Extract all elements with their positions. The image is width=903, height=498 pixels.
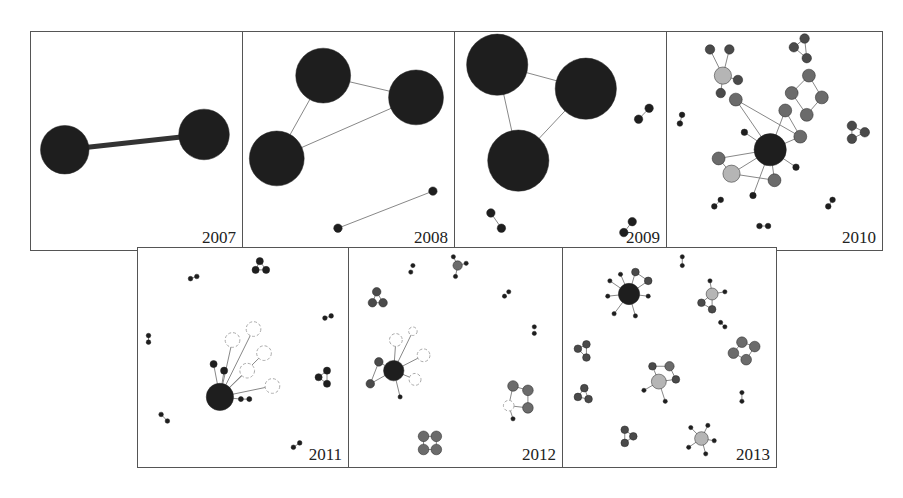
node — [712, 439, 716, 443]
node — [417, 349, 430, 362]
node — [680, 263, 684, 267]
network-graph — [349, 248, 562, 467]
node — [680, 255, 684, 259]
node — [785, 87, 798, 100]
node — [165, 419, 170, 424]
node — [705, 45, 714, 54]
node — [704, 452, 708, 456]
node — [389, 70, 444, 125]
node — [507, 290, 511, 294]
node — [291, 445, 296, 450]
node — [642, 388, 646, 392]
node — [665, 362, 674, 371]
node — [618, 283, 639, 304]
node — [453, 261, 462, 270]
year-label: 2009 — [626, 228, 660, 248]
node — [830, 197, 836, 203]
node — [488, 130, 549, 191]
node — [210, 361, 217, 368]
node — [789, 43, 798, 52]
node — [729, 93, 742, 106]
node — [418, 444, 429, 455]
year-label: 2007 — [202, 228, 236, 248]
node — [695, 432, 709, 446]
node — [497, 224, 505, 232]
node — [847, 134, 856, 143]
node — [585, 395, 593, 403]
node — [323, 316, 328, 321]
node — [389, 334, 402, 347]
node — [451, 255, 455, 259]
panel-2007: 2007 — [30, 31, 243, 251]
node — [651, 374, 666, 389]
node — [687, 445, 691, 449]
panel-2011: 2011 — [137, 247, 349, 468]
node — [368, 298, 377, 307]
node — [706, 423, 710, 427]
node — [768, 174, 781, 187]
node — [409, 373, 421, 385]
network-graph — [667, 32, 882, 250]
node — [860, 128, 869, 137]
node — [366, 380, 375, 389]
node — [487, 209, 495, 217]
node — [815, 91, 828, 104]
node — [464, 261, 468, 265]
node — [431, 431, 442, 442]
year-label: 2013 — [736, 445, 770, 465]
network-graph — [455, 32, 666, 250]
node — [467, 34, 528, 95]
node — [296, 48, 351, 103]
node — [708, 305, 716, 313]
panel-2012: 2012 — [348, 247, 563, 468]
node — [409, 327, 418, 336]
node — [757, 223, 763, 229]
panel-2008: 2008 — [242, 31, 455, 251]
node — [634, 115, 642, 123]
node — [379, 298, 388, 307]
node — [750, 192, 756, 198]
node — [741, 354, 752, 365]
panel-2013: 2013 — [562, 247, 777, 468]
node — [706, 288, 718, 300]
node — [252, 266, 259, 273]
node — [179, 109, 230, 160]
node — [411, 263, 415, 267]
panel-2009: 2009 — [454, 31, 667, 251]
node — [606, 294, 610, 298]
node — [523, 403, 534, 414]
node — [628, 217, 636, 225]
node — [749, 341, 760, 352]
node — [508, 381, 519, 392]
node — [574, 393, 582, 401]
node — [765, 223, 771, 229]
node — [794, 130, 807, 143]
edge — [338, 191, 433, 228]
year-label: 2008 — [414, 228, 448, 248]
year-label: 2010 — [842, 228, 876, 248]
node — [737, 337, 748, 348]
node — [225, 333, 240, 348]
node — [265, 379, 280, 394]
network-graph — [138, 248, 348, 467]
node — [618, 272, 622, 276]
node — [315, 374, 322, 381]
node — [502, 294, 506, 298]
node — [372, 288, 381, 297]
node — [206, 383, 233, 410]
node — [800, 34, 809, 43]
node — [532, 331, 536, 335]
node — [247, 397, 252, 402]
node — [754, 134, 786, 166]
node — [847, 121, 856, 130]
node — [398, 395, 402, 399]
node — [698, 299, 706, 307]
node — [728, 348, 739, 359]
node — [221, 367, 228, 374]
node — [409, 270, 413, 274]
node — [714, 67, 731, 84]
node — [523, 385, 534, 396]
node — [802, 69, 815, 82]
node — [802, 53, 811, 62]
node — [800, 108, 813, 121]
